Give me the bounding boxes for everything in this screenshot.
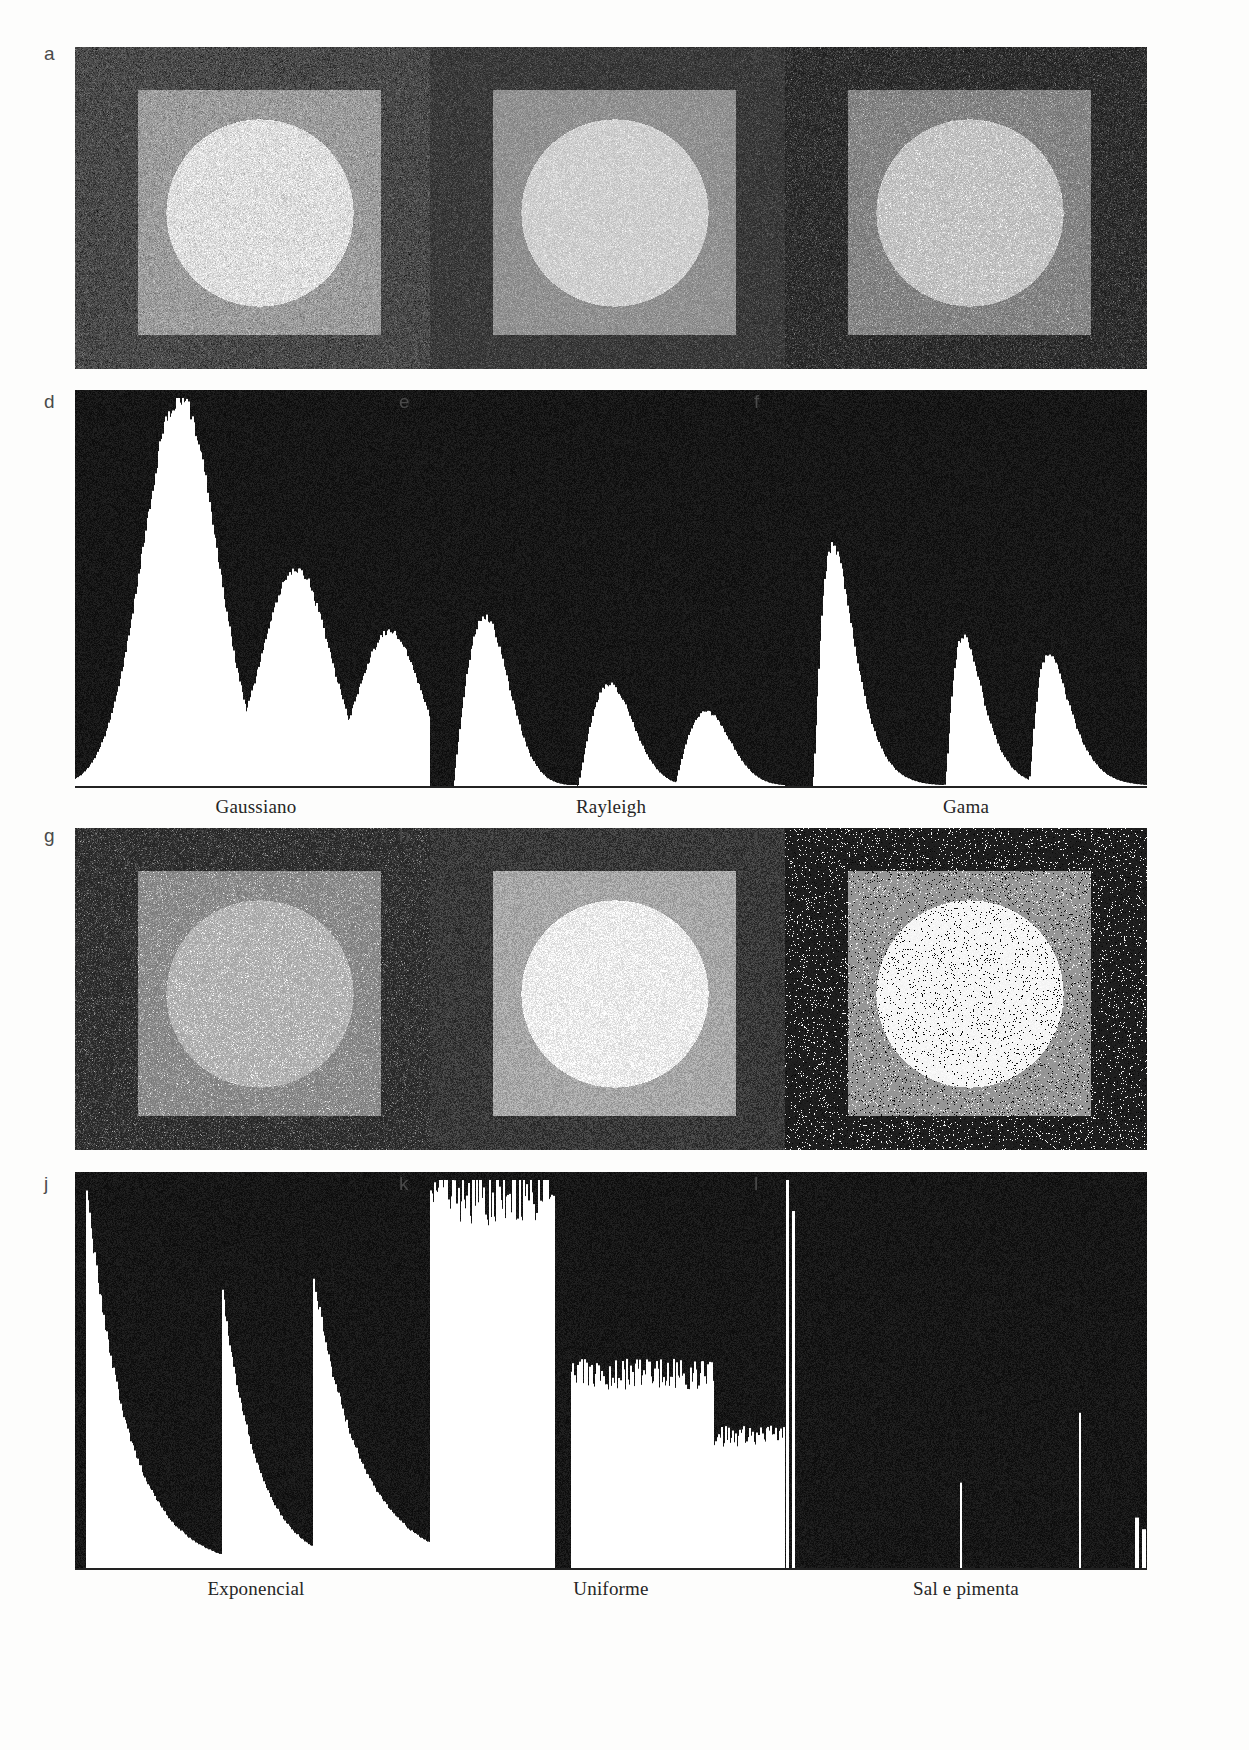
noise-image-canvas-a [75,47,437,369]
histogram-canvas-k [430,1172,792,1568]
histogram-axis-f [785,786,1147,788]
caption-gama: Gama [785,796,1147,818]
histogram-axis-j [75,1568,437,1570]
panel-label-f: f [754,392,759,411]
histogram-canvas-l [785,1172,1147,1568]
histogram-canvas-e [430,390,792,786]
histogram-exponencial [75,1172,437,1568]
histogram-rayleigh [430,390,792,786]
test-image-gama [785,47,1147,369]
histogram-gama [785,390,1147,786]
histogram-canvas-d [75,390,437,786]
histogram-axis-l [785,1568,1147,1570]
caption-uniforme: Uniforme [430,1578,792,1600]
histogram-axis-e [430,786,792,788]
noise-image-canvas-b [430,47,792,369]
histogram-axis-k [430,1568,792,1570]
running-head [680,0,1200,7]
noise-image-canvas-h [430,828,792,1150]
figure-page: a b c d e f Gaussiano Rayleigh Gama [0,0,1249,1750]
panel-label-g: g [44,826,55,845]
caption-sal-e-pimenta: Sal e pimenta [785,1578,1147,1600]
histogram-axis-d [75,786,437,788]
panel-label-l: l [754,1174,758,1193]
caption-exponencial: Exponencial [75,1578,437,1600]
caption-rayleigh: Rayleigh [430,796,792,818]
test-image-uniforme [430,828,792,1150]
noise-image-canvas-c [785,47,1147,369]
test-image-sal-e-pimenta [785,828,1147,1150]
panel-label-d: d [44,392,55,411]
panel-label-i: i [754,826,758,845]
caption-gaussiano: Gaussiano [75,796,437,818]
panel-label-h: h [399,826,410,845]
histogram-gaussiano [75,390,437,786]
histogram-canvas-f [785,390,1147,786]
noise-image-canvas-i [785,828,1147,1150]
histogram-canvas-j [75,1172,437,1568]
panel-label-a: a [44,44,55,63]
test-image-exponencial [75,828,437,1150]
test-image-rayleigh [430,47,792,369]
panel-label-e: e [399,392,410,411]
panel-label-k: k [399,1174,409,1193]
panel-label-j: j [44,1174,48,1193]
histogram-uniforme [430,1172,792,1568]
histogram-sal-e-pimenta [785,1172,1147,1568]
test-image-gaussiano [75,47,437,369]
noise-image-canvas-g [75,828,437,1150]
panel-label-b: b [399,44,410,63]
panel-label-c: c [754,44,764,63]
